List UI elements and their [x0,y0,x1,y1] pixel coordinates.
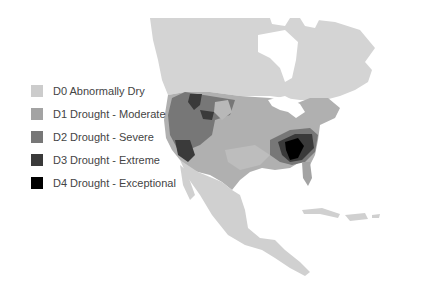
legend-label-d2: D2 Drought - Severe [53,131,154,143]
legend-label-d0: D0 Abnormally Dry [53,85,145,97]
canada-landmass [150,18,375,100]
legend-item-d3: D3 Drought - Extreme [31,149,176,171]
swatch-d4 [31,177,43,189]
puerto-rico [372,214,380,218]
legend-item-d2: D2 Drought - Severe [31,126,176,148]
mexico-landmass [180,160,310,276]
swatch-d2 [31,131,43,143]
legend-item-d1: D1 Drought - Moderate [31,103,176,125]
legend-item-d4: D4 Drought - Exceptional [31,172,176,194]
legend-label-d4: D4 Drought - Exceptional [53,177,176,189]
florida [302,162,312,186]
hispaniola [345,213,368,221]
legend-label-d3: D3 Drought - Extreme [53,154,160,166]
swatch-d0 [31,85,43,97]
legend-item-d0: D0 Abnormally Dry [31,80,176,102]
legend: D0 Abnormally Dry D1 Drought - Moderate … [31,80,176,195]
swatch-d3 [31,154,43,166]
swatch-d1 [31,108,43,120]
cuba [302,208,340,218]
legend-label-d1: D1 Drought - Moderate [53,108,166,120]
